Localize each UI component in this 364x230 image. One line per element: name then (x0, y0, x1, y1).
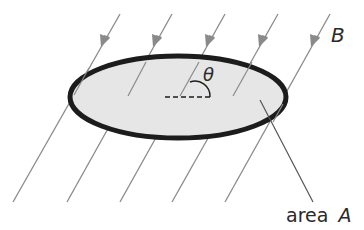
angle-label: θ (203, 64, 214, 85)
area-label: area A (286, 204, 351, 226)
area-symbol: A (336, 204, 351, 226)
field-label: B (331, 23, 345, 47)
area-word: area (286, 204, 328, 226)
area-leader-line (260, 100, 313, 202)
flux-diagram: θ B area A (0, 0, 364, 230)
